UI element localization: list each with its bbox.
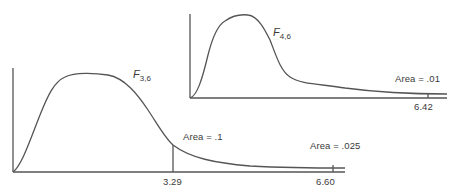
lower-f-df: 3,6: [140, 74, 151, 83]
lower-f-label: F3,6: [133, 68, 151, 83]
upper-area-1: Area = .01: [395, 73, 440, 84]
lower-f-symbol: F: [133, 68, 140, 80]
lower-chart: [13, 68, 345, 172]
lower-area-2: Area = .025: [310, 140, 360, 151]
upper-f-curve: [190, 15, 447, 98]
upper-f-df: 4,6: [280, 32, 291, 41]
upper-f-symbol: F: [273, 26, 280, 38]
lower-tick-6-60: 6.60: [316, 176, 335, 187]
lower-area-1: Area = .1: [183, 131, 223, 142]
upper-f-label: F4,6: [273, 26, 291, 41]
upper-tick-6-42: 6.42: [414, 101, 433, 112]
f-distribution-diagram: [0, 0, 467, 194]
lower-f-curve: [13, 73, 345, 172]
lower-tick-3-29: 3.29: [163, 176, 182, 187]
upper-chart: [190, 14, 447, 98]
